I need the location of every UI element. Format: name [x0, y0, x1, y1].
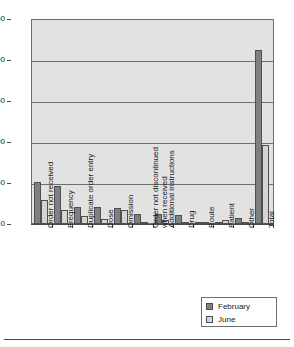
figure-bottom-rule: [4, 339, 290, 340]
x-axis-label: Total: [267, 211, 276, 228]
x-axis-label: Frequency: [66, 190, 75, 228]
x-axis-label: Order not received: [46, 162, 55, 228]
legend-label-february: February: [218, 302, 250, 311]
x-axis-label: Omission: [126, 195, 135, 228]
x-axis-label: Other: [247, 208, 256, 228]
x-axis-label: Duplicate order entry: [86, 154, 95, 228]
x-axis-label: Drug: [187, 211, 196, 228]
legend-label-june: June: [218, 315, 235, 324]
legend-item-june: June: [206, 314, 272, 325]
x-axis-label: Additional instructions: [167, 150, 176, 228]
x-axis-label: Route: [207, 207, 216, 228]
x-axis-label: Dose: [106, 209, 115, 228]
chart-legend: February June: [201, 297, 277, 327]
legend-swatch-june: [206, 316, 213, 323]
legend-item-february: February: [206, 301, 272, 312]
chart-figure: 250 200 150 100 50 0 Order not receivedF…: [0, 0, 294, 347]
legend-swatch-february: [206, 303, 213, 310]
x-axis-label: Patient: [227, 203, 236, 228]
x-axis-labels: Order not receivedFrequencyDuplicate ord…: [0, 0, 294, 347]
